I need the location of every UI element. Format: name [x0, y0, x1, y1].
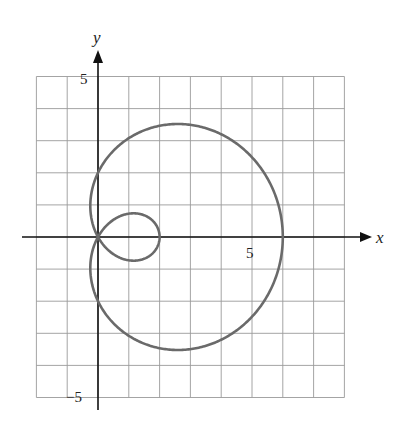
x-axis-label: x [375, 228, 384, 247]
y-axis-arrow-icon [93, 50, 103, 63]
y-tick-neg5: −5 [66, 389, 82, 405]
polar-plot: x y 5 5 −5 [0, 0, 400, 421]
y-tick-5: 5 [80, 71, 88, 87]
x-tick-5: 5 [246, 245, 254, 261]
y-axis-label: y [91, 28, 101, 47]
x-axis-arrow-icon [360, 232, 372, 242]
